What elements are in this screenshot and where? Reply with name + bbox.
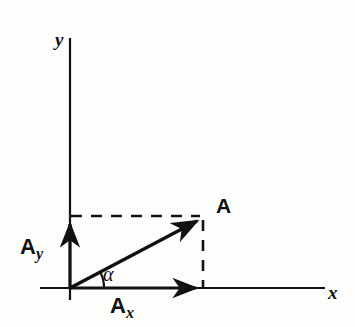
component-ax-label-subscript: x bbox=[126, 304, 134, 321]
component-ay-label-base: A bbox=[20, 234, 36, 259]
x-axis-label: x bbox=[328, 283, 338, 302]
y-axis-label: y bbox=[55, 30, 63, 49]
component-ay-label: Ay bbox=[20, 236, 43, 262]
component-ax-label-base: A bbox=[110, 293, 126, 318]
component-ax-label: Ax bbox=[110, 295, 134, 321]
vector-diagram-canvas bbox=[0, 0, 355, 327]
angle-alpha-label: α bbox=[103, 264, 114, 284]
vector-a-arrow bbox=[70, 221, 197, 288]
vector-diagram-figure: y x Ay Ax A α bbox=[0, 0, 355, 327]
vector-a-label: A bbox=[216, 195, 231, 216]
component-ay-label-subscript: y bbox=[36, 245, 43, 262]
